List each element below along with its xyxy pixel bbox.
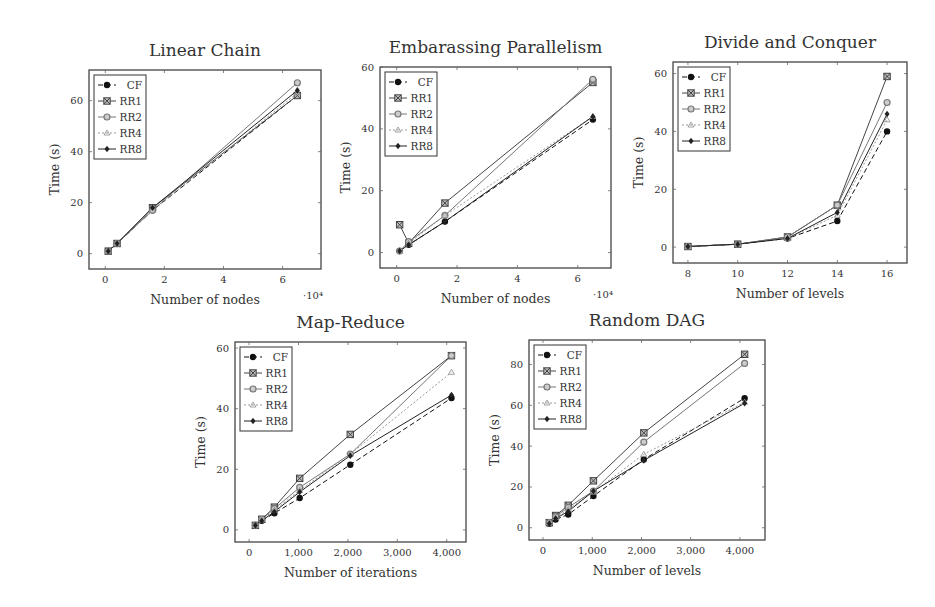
series-rr1-marker: [741, 351, 747, 357]
x-tick-label: 16: [881, 268, 894, 279]
y-tick-label: 0: [77, 248, 83, 259]
legend-label-rr8: RR8: [411, 140, 434, 152]
x-tick-label: 1,000: [578, 545, 607, 556]
y-tick-label: 20: [361, 185, 374, 196]
y-tick-label: 60: [654, 68, 667, 79]
x-tick-label: 6: [575, 273, 581, 284]
legend-label-rr4: RR4: [266, 399, 289, 411]
legend-label-rr2: RR2: [120, 111, 143, 123]
series-rr2-marker: [590, 76, 596, 82]
legend-label-rr2: RR2: [560, 381, 583, 393]
legend-label-rr8: RR8: [704, 135, 727, 147]
x-tick-label: 0: [393, 273, 399, 284]
x-tick-label: 12: [781, 268, 794, 279]
legend-label-rr1: RR1: [266, 367, 289, 379]
x-tick-label: 10: [731, 268, 744, 279]
legend-label-cf: CF: [567, 349, 582, 361]
x-tick-label: 2: [161, 274, 167, 285]
y-tick-label: 60: [216, 343, 229, 354]
x-axis-label: Number of nodes: [150, 292, 260, 307]
x-multiplier-label: ·10⁴: [593, 289, 613, 300]
legend-label-rr8: RR8: [120, 143, 143, 155]
legend-label-rr4: RR4: [120, 127, 143, 139]
x-tick-label: 2,000: [627, 545, 656, 556]
chart-map-reduce: Map-Reduce01,0002,0003,0004,0000204060Nu…: [193, 312, 466, 580]
y-tick-label: 0: [368, 247, 374, 258]
y-tick-label: 20: [70, 197, 83, 208]
y-tick-label: 0: [661, 242, 667, 253]
legend: CFRR1RR2RR4RR8: [240, 347, 292, 431]
y-tick-label: 40: [654, 126, 667, 137]
legend-rr2-marker: [544, 384, 550, 390]
x-multiplier-label: ·10⁴: [303, 290, 323, 301]
legend: CFRR1RR2RR4RR8: [678, 67, 730, 151]
x-tick-label: 2,000: [334, 547, 363, 558]
legend-cf-marker: [395, 79, 401, 85]
series-cf-marker: [347, 462, 353, 468]
legend-label-rr8: RR8: [266, 415, 289, 427]
legend-rr1-marker: [688, 90, 694, 96]
y-axis-label: Time (s): [631, 137, 646, 189]
x-tick-label: 4,000: [726, 545, 755, 556]
series-rr2-marker: [884, 99, 890, 105]
series-rr1-marker: [296, 475, 302, 481]
x-tick-label: 14: [831, 268, 844, 279]
y-tick-label: 20: [216, 464, 229, 475]
legend-rr1-marker: [104, 98, 110, 104]
legend: CFRR1RR2RR4RR8: [94, 75, 146, 159]
series-rr1-marker: [641, 430, 647, 436]
chart-title: Divide and Conquer: [704, 32, 877, 52]
legend-rr2-marker: [104, 114, 110, 120]
chart-title: Map-Reduce: [296, 312, 404, 332]
y-tick-label: 60: [510, 400, 523, 411]
legend-rr1-marker: [250, 370, 256, 376]
legend-label-rr4: RR4: [411, 124, 434, 136]
chart-divide-and-conquer: Divide and Conquer8101214160204060Number…: [631, 32, 907, 301]
legend-label-rr1: RR1: [120, 95, 143, 107]
series-rr2-marker: [294, 80, 300, 86]
legend-label-cf: CF: [711, 71, 726, 83]
y-axis-label: Time (s): [487, 414, 502, 466]
series-rr2-marker: [641, 439, 647, 445]
y-tick-label: 20: [654, 184, 667, 195]
x-tick-label: 4: [514, 273, 520, 284]
y-tick-label: 0: [517, 522, 523, 533]
legend-rr2-marker: [395, 111, 401, 117]
series-rr4-marker: [448, 369, 454, 374]
chart-random-dag: Random DAG01,0002,0003,0004,000020406080…: [487, 310, 765, 578]
legend: CFRR1RR2RR4RR8: [534, 345, 586, 429]
legend: CFRR1RR2RR4RR8: [385, 72, 437, 156]
legend-label-cf: CF: [418, 76, 433, 88]
legend-cf-marker: [104, 82, 110, 88]
y-tick-label: 40: [216, 403, 229, 414]
legend-label-rr4: RR4: [704, 119, 727, 131]
legend-label-cf: CF: [273, 351, 288, 363]
series-rr1-marker: [347, 431, 353, 437]
series-rr1-marker: [396, 222, 402, 228]
legend-label-rr1: RR1: [411, 92, 434, 104]
x-tick-label: 4: [220, 274, 226, 285]
legend-label-rr4: RR4: [560, 397, 583, 409]
chart-embarassing-parallelism: Embarassing Parallelism02460204060Number…: [338, 37, 613, 306]
y-tick-label: 20: [510, 481, 523, 492]
y-tick-label: 40: [510, 441, 523, 452]
x-axis-label: Number of iterations: [284, 565, 417, 580]
chart-linear-chain: Linear Chain02460204060Number of nodesTi…: [47, 40, 323, 307]
series-rr1-marker: [884, 73, 890, 79]
legend-rr2-marker: [250, 386, 256, 392]
y-tick-label: 60: [361, 62, 374, 73]
y-tick-label: 40: [361, 123, 374, 134]
legend-cf-marker: [544, 352, 550, 358]
legend-rr1-marker: [395, 95, 401, 101]
legend-label-rr8: RR8: [560, 413, 583, 425]
x-tick-label: 0: [246, 547, 252, 558]
series-cf-marker: [884, 128, 890, 134]
figure-canvas: Linear Chain02460204060Number of nodesTi…: [0, 0, 935, 607]
x-tick-label: 1,000: [284, 547, 313, 558]
legend-cf-marker: [688, 74, 694, 80]
series-rr2-marker: [834, 202, 840, 208]
y-axis-label: Time (s): [47, 144, 62, 196]
x-tick-label: 8: [685, 268, 691, 279]
legend-label-rr2: RR2: [411, 108, 434, 120]
x-tick-label: 2: [454, 273, 460, 284]
